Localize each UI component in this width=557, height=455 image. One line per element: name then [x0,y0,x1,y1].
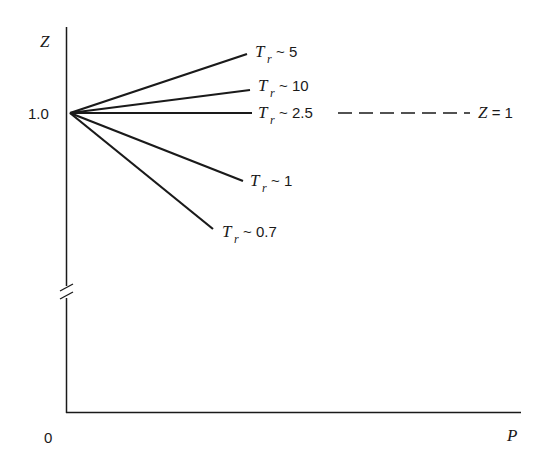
label-t: T [258,76,269,95]
label-r-sub: r [270,113,275,127]
ref-eq: = 1 [487,104,512,121]
compressibility-chart: Z P 1.0 0 T r ~ 5 T r ~ 10 T r ~ 2.5 Z =… [0,0,557,455]
label-value: ~ 10 [279,77,309,94]
label-r-sub: r [262,181,267,195]
label-r-sub: r [270,86,275,100]
label-t: T [250,171,261,190]
label-t: T [258,103,269,122]
label-tr-10: T r ~ 10 [258,76,309,100]
axis-break-mark [60,292,73,299]
label-tr-0-7: T r ~ 0.7 [222,222,277,246]
label-t: T [222,222,233,241]
line-tr-10 [70,90,250,113]
line-tr-1 [70,113,243,181]
label-r-sub: r [267,52,272,66]
y-tick-label: 1.0 [28,105,49,122]
line-tr-0-7 [70,113,213,229]
line-tr-5 [70,54,247,113]
label-value: ~ 2.5 [279,104,313,121]
x-axis-label: P [506,426,517,445]
label-value: ~ 0.7 [243,223,277,240]
label-tr-5: T r ~ 5 [255,42,297,66]
label-tr-1: T r ~ 1 [250,171,292,195]
label-value: ~ 5 [276,43,297,60]
label-value: ~ 1 [271,172,292,189]
reference-line-label: Z = 1 [478,103,513,122]
label-r-sub: r [234,232,239,246]
y-axis-label: Z [40,32,50,51]
label-t: T [255,42,266,61]
label-tr-2-5: T r ~ 2.5 [258,103,313,127]
origin-label: 0 [44,429,52,446]
